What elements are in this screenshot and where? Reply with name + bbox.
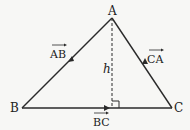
triangle-diagram: A B C AB BC CA h — [0, 0, 190, 130]
arrow-bc-icon — [104, 105, 110, 111]
vector-ab-label: AB — [49, 48, 66, 61]
height-label: h — [103, 62, 111, 76]
vertex-c-label: C — [174, 101, 183, 115]
vertex-b-label: B — [10, 101, 19, 115]
right-angle-marker — [112, 101, 119, 108]
side-ab — [22, 18, 112, 108]
vector-ca-label-group: CA — [147, 49, 164, 67]
vertex-a-label: A — [107, 4, 117, 18]
vector-bc-label-group: BC — [93, 112, 110, 130]
vector-bc-label: BC — [93, 116, 110, 129]
vector-ca-label: CA — [147, 53, 164, 66]
vector-ab-label-group: AB — [49, 44, 67, 62]
